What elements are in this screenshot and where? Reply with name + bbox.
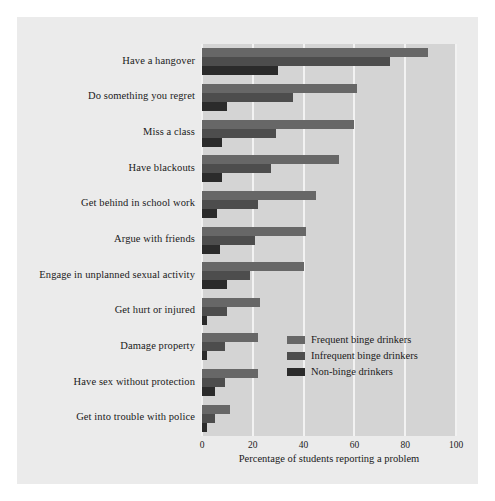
bar-group xyxy=(202,84,456,111)
bar-group xyxy=(202,120,456,147)
bar-group xyxy=(202,191,456,218)
legend-label: Infrequent binge drinkers xyxy=(311,350,418,361)
legend: Frequent binge drinkersInfrequent binge … xyxy=(287,332,447,380)
category-label: Have a hangover xyxy=(17,55,195,66)
x-tick-label: 100 xyxy=(449,440,463,450)
bar xyxy=(202,84,357,93)
bar xyxy=(202,164,271,173)
category-label: Engage in unplanned sexual activity xyxy=(17,269,195,280)
bar xyxy=(202,173,222,182)
bar xyxy=(202,120,354,129)
figure-canvas: Have a hangoverDo something you regretMi… xyxy=(17,17,478,484)
bar xyxy=(202,129,276,138)
bar xyxy=(202,191,316,200)
category-label: Argue with friends xyxy=(17,233,195,244)
bar-group xyxy=(202,227,456,254)
x-tick-label: 20 xyxy=(248,440,258,450)
x-tick-label: 0 xyxy=(200,440,205,450)
bar xyxy=(202,298,260,307)
bar xyxy=(202,342,225,351)
legend-item[interactable]: Frequent binge drinkers xyxy=(287,332,447,347)
bar xyxy=(202,333,258,342)
bar xyxy=(202,66,278,75)
category-label: Do something you regret xyxy=(17,90,195,101)
bar xyxy=(202,48,428,57)
category-label: Damage property xyxy=(17,340,195,351)
bar xyxy=(202,262,304,271)
bar xyxy=(202,227,306,236)
category-label: Get hurt or injured xyxy=(17,304,195,315)
bar xyxy=(202,280,227,289)
bar xyxy=(202,155,339,164)
bar xyxy=(202,138,222,147)
legend-swatch-icon xyxy=(287,336,305,344)
bar xyxy=(202,57,390,66)
bar xyxy=(202,351,207,360)
bar-group xyxy=(202,48,456,75)
bar xyxy=(202,93,293,102)
category-axis-labels: Have a hangoverDo something you regretMi… xyxy=(17,44,195,436)
bar xyxy=(202,271,250,280)
bar xyxy=(202,102,227,111)
bar xyxy=(202,245,220,254)
bar xyxy=(202,387,215,396)
legend-swatch-icon xyxy=(287,352,305,360)
category-label: Miss a class xyxy=(17,126,195,137)
x-axis-title: Percentage of students reporting a probl… xyxy=(202,453,456,464)
bar-group xyxy=(202,262,456,289)
bar xyxy=(202,369,258,378)
legend-swatch-icon xyxy=(287,368,305,376)
x-tick-label: 60 xyxy=(350,440,360,450)
bar-group xyxy=(202,298,456,325)
legend-item[interactable]: Non-binge drinkers xyxy=(287,364,447,379)
legend-label: Frequent binge drinkers xyxy=(311,334,411,345)
bar-group xyxy=(202,405,456,432)
category-label: Have sex without protection xyxy=(17,376,195,387)
bar-group xyxy=(202,155,456,182)
bar xyxy=(202,405,230,414)
bar xyxy=(202,414,215,423)
bar xyxy=(202,307,227,316)
legend-label: Non-binge drinkers xyxy=(311,366,393,377)
bar xyxy=(202,316,207,325)
bar xyxy=(202,378,225,387)
bar xyxy=(202,200,258,209)
bar xyxy=(202,423,207,432)
bar xyxy=(202,236,255,245)
legend-item[interactable]: Infrequent binge drinkers xyxy=(287,348,447,363)
category-label: Get behind in school work xyxy=(17,197,195,208)
category-label: Get into trouble with police xyxy=(17,411,195,422)
x-tick-label: 80 xyxy=(400,440,410,450)
x-tick-label: 40 xyxy=(299,440,309,450)
bar xyxy=(202,209,217,218)
category-label: Have blackouts xyxy=(17,162,195,173)
